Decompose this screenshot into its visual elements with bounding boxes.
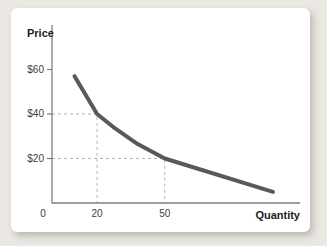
page-background: Price Quantity $60 $40 $20 0 20 50 bbox=[0, 0, 327, 246]
guide-dashed-line bbox=[52, 159, 165, 204]
y-tick-label: $40 bbox=[16, 108, 44, 119]
demand-curve bbox=[75, 76, 273, 192]
y-tick-label: $20 bbox=[16, 153, 44, 164]
x-tick-label: 20 bbox=[85, 208, 109, 219]
y-tick-label: $60 bbox=[16, 64, 44, 75]
y-axis-label: Price bbox=[27, 27, 54, 39]
x-axis-label: Quantity bbox=[220, 209, 300, 221]
x-tick-label: 50 bbox=[153, 208, 177, 219]
x-tick-label: 0 bbox=[31, 208, 55, 219]
